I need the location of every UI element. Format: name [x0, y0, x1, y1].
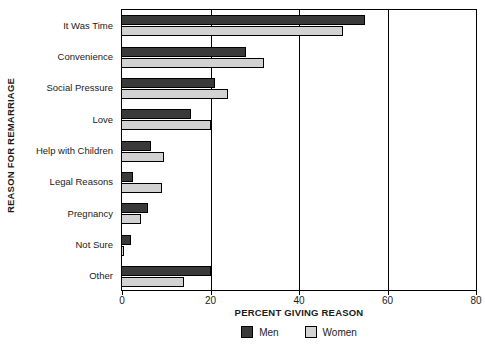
x-axis-title: PERCENT GIVING REASON — [121, 307, 477, 318]
bar — [122, 183, 162, 193]
x-axis-ticks: 020406080 — [121, 291, 477, 305]
bar — [122, 89, 228, 99]
category-label: Legal Reasons — [50, 176, 113, 187]
legend-entry: Men — [241, 326, 278, 338]
gridline-x-60 — [388, 10, 389, 290]
category-label: Convenience — [58, 51, 113, 62]
x-tick-label: 40 — [293, 295, 304, 306]
y-axis-title-text: REASON FOR REMARRIAGE — [6, 77, 17, 212]
bar — [122, 235, 131, 245]
bar — [122, 141, 151, 151]
legend-label: Men — [259, 327, 278, 338]
legend-swatch-icon — [305, 326, 317, 338]
bar — [122, 266, 211, 276]
category-label: Love — [92, 113, 113, 124]
category-label: Help with Children — [36, 145, 113, 156]
bar — [122, 109, 191, 119]
category-label: Pregnancy — [68, 207, 113, 218]
bar — [122, 15, 365, 25]
legend: MenWomen — [121, 326, 477, 338]
category-label: It Was Time — [63, 19, 113, 30]
x-tick-label: 60 — [382, 295, 393, 306]
plot-area — [121, 9, 477, 291]
bar — [122, 26, 343, 36]
legend-label: Women — [323, 327, 357, 338]
category-label: Social Pressure — [46, 82, 113, 93]
gridline-x-40 — [299, 10, 300, 290]
category-axis-labels: It Was TimeConvenienceSocial PressureLov… — [18, 9, 117, 291]
bar — [122, 120, 211, 130]
bar — [122, 58, 264, 68]
bar — [122, 203, 148, 213]
bar — [122, 172, 133, 182]
x-tick-label: 0 — [119, 295, 125, 306]
legend-entry: Women — [305, 326, 357, 338]
bar — [122, 277, 184, 287]
x-tick-label: 20 — [205, 295, 216, 306]
bar — [122, 47, 246, 57]
bar — [122, 152, 164, 162]
bar — [122, 246, 124, 256]
x-tick-label: 80 — [470, 295, 481, 306]
legend-swatch-icon — [241, 326, 253, 338]
category-label: Not Sure — [76, 239, 114, 250]
bar — [122, 78, 215, 88]
bar — [122, 214, 141, 224]
bar-chart-figure: REASON FOR REMARRIAGE It Was TimeConveni… — [0, 0, 485, 349]
plot-inner — [122, 10, 476, 290]
category-label: Other — [89, 270, 113, 281]
